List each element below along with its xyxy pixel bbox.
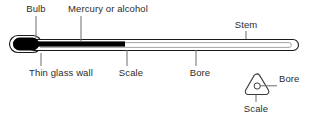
inset-label-scale: Scale [244, 103, 268, 114]
diagram-canvas: Bulb Mercury or alcohol Stem Thin glass … [0, 0, 315, 116]
label-scale: Scale [119, 67, 143, 78]
label-bulb: Bulb [26, 3, 45, 14]
label-thin-glass-wall: Thin glass wall [29, 67, 93, 78]
thermometer-diagram-figure: Bulb Mercury or alcohol Stem Thin glass … [0, 0, 315, 116]
label-stem: Stem [235, 19, 258, 30]
cross-section-inset: Bore Scale [244, 73, 300, 114]
cross-section-bore-hole [254, 83, 260, 89]
label-bore: Bore [190, 67, 210, 78]
inset-label-bore: Bore [279, 73, 299, 84]
stem-liquid-fill [35, 41, 125, 46]
label-mercury-or-alcohol: Mercury or alcohol [68, 3, 148, 14]
